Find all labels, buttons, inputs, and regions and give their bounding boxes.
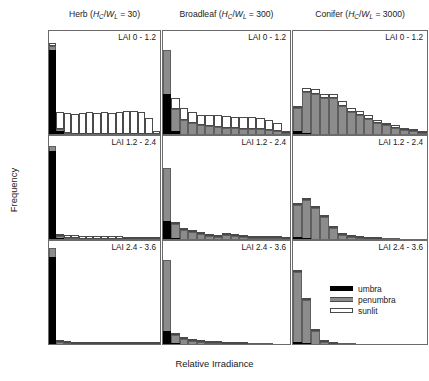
bar-segment-sunlit (197, 115, 205, 125)
bar-segment-sunlit (205, 341, 213, 343)
bar-segment-sunlit (231, 342, 239, 344)
bar-segment-sunlit (153, 342, 160, 344)
bar-segment-sunlit (222, 116, 230, 128)
bar-segment-penumbra (222, 128, 230, 134)
bar-segment-sunlit (356, 111, 365, 115)
histogram-bar (302, 88, 311, 134)
histogram-bar (302, 199, 311, 239)
bar-segment-penumbra (205, 343, 213, 344)
histogram-bar (320, 94, 329, 135)
histogram-bar (116, 112, 123, 134)
bar-segment-penumbra (338, 106, 347, 134)
histogram-bar (329, 343, 338, 344)
bar-segment-sunlit (79, 236, 86, 239)
bar-segment-sunlit (71, 342, 78, 344)
bar-segment-sunlit (231, 234, 239, 236)
bar-segment-sunlit (256, 118, 264, 129)
bar-segment-sunlit (282, 237, 290, 239)
bar-segment-penumbra (171, 109, 179, 131)
histogram-bar (409, 130, 418, 134)
histogram-bar (222, 235, 230, 239)
x-axis-tick-mark (148, 344, 149, 345)
histogram-bar (205, 235, 213, 239)
x-axis-tick-mark (219, 344, 220, 345)
histogram-bar (231, 117, 239, 134)
bar-segment-umbra (302, 133, 311, 134)
bar-segment-sunlit (239, 235, 247, 237)
x-axis-tick-mark (49, 344, 50, 345)
histogram-bar (79, 343, 86, 344)
histogram-bar (282, 131, 290, 134)
bar-segment-penumbra (311, 94, 320, 135)
bar-segment-penumbra (293, 272, 302, 342)
histogram-bar (188, 341, 196, 344)
bar-segment-sunlit (171, 222, 179, 224)
plot-area: LAI 0 - 1.2 (163, 31, 290, 134)
bar-segment-sunlit (145, 342, 152, 344)
bar-segment-penumbra (302, 200, 311, 239)
bar-segment-penumbra (64, 238, 71, 239)
histogram-bar (108, 236, 115, 239)
bar-segment-penumbra (56, 236, 63, 238)
bar-segment-sunlit (108, 342, 115, 344)
plot-area: LAI 0 - 1.20.00.10.20.3 (49, 31, 160, 134)
histogram-bar (49, 248, 56, 344)
histogram-bar (64, 342, 71, 344)
bar-segment-penumbra (265, 343, 273, 344)
bar-segment-sunlit (338, 101, 347, 105)
histogram-bar (273, 123, 281, 134)
panel-label: LAI 1.2 - 2.4 (378, 138, 423, 147)
bar-segment-sunlit (56, 234, 63, 236)
legend-item: penumbra (330, 294, 396, 305)
bar-segment-penumbra (364, 119, 373, 134)
plot-area: LAI 1.2 - 2.40.00.20.40.6 (49, 136, 160, 239)
x-axis-tick-mark (323, 344, 324, 345)
panel-herb-lai-3: LAI 2.4 - 3.60.00.30.60.00.30.60.91.2 (48, 240, 161, 345)
histogram-bar (222, 343, 230, 344)
histogram-bar (86, 112, 93, 134)
panel-herb-lai-1: LAI 0 - 1.20.00.10.20.3 (48, 30, 161, 135)
plot-area: LAI 0 - 1.2 (293, 31, 427, 134)
histogram-bar (163, 260, 171, 344)
histogram-bar (265, 238, 273, 239)
histogram-bar (293, 272, 302, 344)
histogram-bar (418, 132, 427, 134)
bar-segment-sunlit (205, 234, 213, 236)
bar-segment-sunlit (138, 237, 145, 239)
histogram-bar (93, 343, 100, 344)
histogram-bar (138, 112, 145, 134)
bar-segment-sunlit (364, 237, 373, 239)
bar-segment-penumbra (293, 108, 302, 130)
bar-segment-sunlit (373, 237, 382, 239)
x-axis-tick-mark (382, 344, 383, 345)
bar-segment-sunlit (273, 123, 281, 131)
legend-item: umbra (330, 283, 396, 294)
bar-segment-penumbra (373, 123, 382, 134)
bar-segment-sunlit (329, 226, 338, 228)
bar-segment-penumbra (391, 238, 400, 239)
histogram-bar (49, 43, 56, 134)
histogram-bar (64, 113, 71, 134)
bar-segment-sunlit (329, 94, 338, 99)
histogram-bar (188, 232, 196, 239)
histogram-bar (116, 236, 123, 239)
bar-segment-sunlit (256, 236, 264, 238)
bar-segment-sunlit (418, 131, 427, 133)
bar-segment-sunlit (93, 236, 100, 239)
histogram-bar (214, 343, 222, 344)
bar-segment-penumbra (311, 208, 320, 239)
bar-segment-penumbra (180, 120, 188, 134)
plot-area: LAI 2.4 - 3.60.00.30.60.91.2 (163, 241, 290, 344)
bar-segment-penumbra (382, 125, 391, 134)
histogram-bar (382, 123, 391, 134)
bar-segment-sunlit (214, 235, 222, 237)
bar-segment-sunlit (171, 98, 179, 108)
bar-segment-penumbra (347, 237, 356, 239)
histogram-bar (311, 207, 320, 239)
bar-segment-sunlit (86, 236, 93, 239)
bar-segment-sunlit (64, 113, 71, 134)
histogram-bar (171, 223, 179, 239)
bar-segment-penumbra (356, 238, 365, 239)
bar-segment-sunlit (130, 111, 137, 134)
bar-segment-penumbra (222, 235, 230, 239)
